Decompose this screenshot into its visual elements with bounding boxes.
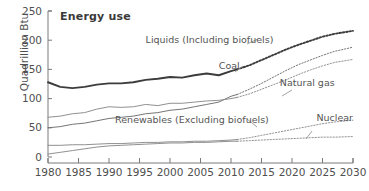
y-tick-label: 0 [35, 151, 42, 163]
energy-use-chart: Quadrillion Btu Energy use 0501001502002… [0, 0, 369, 191]
chart-plot-area: 050100150200250 198019851990199520002005… [0, 0, 369, 191]
x-tick-label: 2015 [248, 166, 275, 178]
x-tick-label: 1990 [96, 166, 123, 178]
x-tick-label: 2020 [279, 166, 306, 178]
x-tick-label: 2030 [340, 166, 367, 178]
x-tick-label: 1995 [126, 166, 153, 178]
x-tick-label: 2005 [187, 166, 214, 178]
x-tick-label: 2025 [309, 166, 336, 178]
annotation-leader-line [282, 90, 292, 96]
series-annotation-label: Liquids (Including biofuels) [146, 34, 274, 45]
x-tick-label: 1980 [35, 166, 62, 178]
y-tick-label: 50 [29, 121, 42, 133]
series-annotation-label: Nuclear [316, 112, 353, 123]
series-annotation-label: Coal [219, 60, 240, 71]
y-tick-label: 100 [22, 92, 42, 104]
series-annotation-label: Natural gas [280, 77, 335, 88]
series-annotation-label: Renewables (Excluding biofuels) [115, 114, 269, 125]
series-line-history [48, 141, 237, 154]
series-line-projection [237, 137, 353, 142]
series-line-history [48, 69, 237, 88]
y-tick-labels: 050100150200250 [22, 5, 42, 163]
y-tick-label: 200 [22, 34, 42, 46]
x-tick-label: 1985 [65, 166, 92, 178]
x-tick-label: 2010 [218, 166, 245, 178]
series-lines [48, 31, 353, 154]
x-tick-labels: 1980198519901995200020052010201520202025… [35, 166, 367, 178]
y-tick-label: 150 [22, 63, 42, 75]
x-tick-label: 2000 [157, 166, 184, 178]
y-tick-label: 250 [22, 5, 42, 17]
